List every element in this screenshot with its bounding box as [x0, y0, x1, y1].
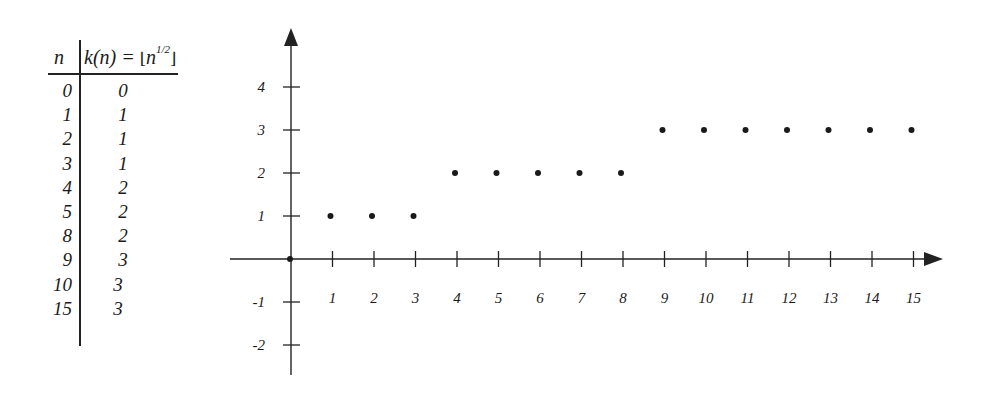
x-tick-label: 5 — [495, 290, 503, 306]
x-tick-label: 11 — [741, 290, 755, 306]
data-point — [743, 127, 749, 133]
data-point — [369, 213, 375, 219]
x-tick-label: 12 — [782, 290, 798, 306]
y-tick-label: -2 — [253, 337, 266, 353]
y-tick-label: 1 — [258, 208, 266, 224]
y-tick-label: -1 — [253, 294, 266, 310]
data-point — [660, 127, 666, 133]
data-point — [535, 170, 541, 176]
data-point — [909, 127, 915, 133]
x-tick-label: 7 — [578, 290, 587, 306]
x-tick-label: 14 — [865, 290, 881, 306]
data-point — [577, 170, 583, 176]
tick-labels: 1234567891011121314154321-1-2 — [253, 79, 922, 353]
x-tick-label: 9 — [661, 290, 669, 306]
data-point — [494, 170, 500, 176]
x-tick-label: 8 — [619, 290, 627, 306]
data-point — [411, 213, 417, 219]
data-point — [328, 213, 334, 219]
x-tick-label: 15 — [906, 290, 922, 306]
y-axis-arrow-icon — [284, 28, 298, 46]
data-point — [784, 127, 790, 133]
x-tick-label: 13 — [823, 290, 838, 306]
y-tick-label: 2 — [258, 165, 266, 181]
data-point — [826, 127, 832, 133]
x-tick-label: 2 — [370, 290, 378, 306]
axis-ticks — [283, 87, 914, 345]
scatter-plot: 1234567891011121314154321-1-2 — [0, 0, 993, 400]
y-tick-label: 4 — [258, 79, 266, 95]
x-tick-label: 4 — [453, 290, 461, 306]
data-point — [452, 170, 458, 176]
y-tick-label: 3 — [257, 122, 266, 138]
axes — [230, 28, 943, 375]
x-axis-arrow-icon — [924, 252, 943, 266]
x-tick-label: 6 — [536, 290, 544, 306]
x-tick-label: 10 — [699, 290, 715, 306]
data-points — [287, 127, 915, 262]
data-point — [618, 170, 624, 176]
data-point — [287, 256, 293, 262]
data-point — [701, 127, 707, 133]
data-point — [867, 127, 873, 133]
x-tick-label: 1 — [329, 290, 337, 306]
x-tick-label: 3 — [411, 290, 420, 306]
